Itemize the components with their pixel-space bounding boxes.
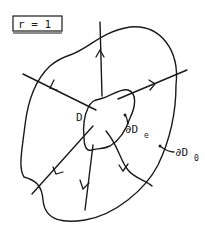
parameter-box: r = 1 [13, 16, 62, 33]
ray-upper-left [23, 74, 96, 110]
ray-down [80, 145, 93, 210]
region-label: D [76, 111, 83, 124]
outer-boundary-label: ∂D 0 [159, 145, 200, 164]
ray-lower-left [32, 126, 93, 194]
diagram-canvas: r = 1 D ∂D e ∂D 0 [0, 0, 205, 232]
svg-text:∂D: ∂D [125, 123, 138, 136]
svg-text:∂D: ∂D [175, 146, 188, 159]
parameter-text: r = 1 [18, 18, 51, 31]
ray-up [96, 22, 104, 96]
svg-text:0: 0 [194, 154, 199, 163]
outer-boundary-curve [21, 27, 177, 221]
inner-boundary-label: ∂D e [124, 114, 150, 141]
svg-text:e: e [144, 131, 149, 140]
